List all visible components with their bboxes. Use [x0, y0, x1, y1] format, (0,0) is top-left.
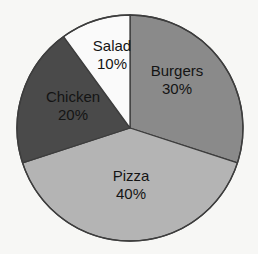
- pie-chart: Burgers30%Pizza40%Chicken20%Salad10%: [0, 0, 258, 254]
- slice-label-name-chicken: Chicken: [46, 88, 100, 105]
- slice-label-value-chicken: 20%: [58, 106, 88, 123]
- pie-chart-container: Burgers30%Pizza40%Chicken20%Salad10%: [0, 0, 258, 254]
- slice-label-name-pizza: Pizza: [113, 167, 150, 184]
- slice-label-value-burgers: 30%: [162, 80, 192, 97]
- slice-label-value-pizza: 40%: [116, 185, 146, 202]
- slice-label-value-salad: 10%: [97, 55, 127, 72]
- slice-label-name-burgers: Burgers: [151, 62, 204, 79]
- slice-label-name-salad: Salad: [93, 37, 131, 54]
